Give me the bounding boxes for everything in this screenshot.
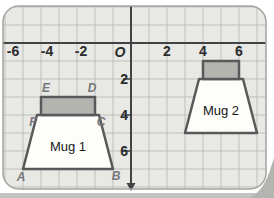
x-tick-label-2: 2 [163, 43, 171, 59]
x-tick-label-neg-4: -4 [41, 43, 54, 59]
mug2-label: Mug 2 [203, 103, 239, 118]
vertex-label-e: E [42, 81, 51, 95]
x-tick-label-neg-2: -2 [75, 43, 88, 59]
vertex-label-c: C [97, 115, 106, 129]
origin-label: O [115, 44, 126, 60]
x-tick-label-neg-6: -6 [7, 43, 20, 59]
y-tick-label-4: 4 [120, 107, 128, 123]
coordinate-grid-diagram: -6 -4 -2 O 2 4 6 2 4 6 Mug 1 E D F C A B… [0, 0, 274, 198]
mug1-rim [41, 97, 95, 115]
vertex-label-b: B [112, 169, 121, 183]
x-tick-label-4: 4 [199, 43, 207, 59]
mug2-rim [203, 61, 239, 79]
textbook-figure: -6 -4 -2 O 2 4 6 2 4 6 Mug 1 E D F C A B… [0, 0, 274, 198]
vertex-label-f: F [29, 115, 37, 129]
x-tick-label-6: 6 [235, 43, 243, 59]
vertex-label-d: D [88, 81, 97, 95]
vertex-label-a: A [16, 170, 26, 184]
y-tick-label-2: 2 [120, 71, 128, 87]
mug1-label: Mug 1 [50, 139, 86, 154]
y-tick-label-6: 6 [120, 143, 128, 159]
page-edge-band [0, 193, 274, 198]
